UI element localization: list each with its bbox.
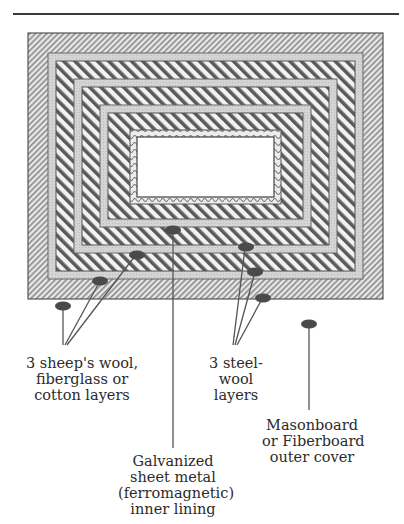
marker-cover xyxy=(301,320,317,329)
marker-wool-2 xyxy=(92,277,108,286)
outer-cover-label: Masonboard or Fiberboard outer cover xyxy=(262,417,362,465)
marker-wool-3 xyxy=(129,251,145,260)
steel-wool-layers-label: 3 steel- wool layers xyxy=(200,355,272,403)
box-interior xyxy=(137,137,274,197)
marker-steel-3 xyxy=(255,294,271,303)
marker-wool-1 xyxy=(55,302,71,311)
marker-steel-2 xyxy=(247,268,263,277)
marker-steel-1 xyxy=(238,243,254,252)
marker-lining xyxy=(165,226,181,235)
wool-layers-label: 3 sheep's wool, fiberglass or cotton lay… xyxy=(22,355,142,403)
inner-lining-label: Galvanized sheet metal (ferromagnetic) i… xyxy=(118,453,228,517)
